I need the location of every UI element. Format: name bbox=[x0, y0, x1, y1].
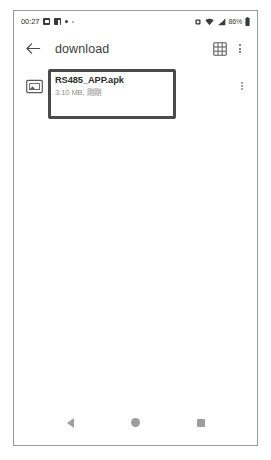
status-bar-left: 00:27 bbox=[21, 17, 74, 26]
page-title: download bbox=[55, 42, 211, 56]
row-overflow-icon[interactable] bbox=[235, 78, 249, 94]
status-bar: 00:27 86% bbox=[14, 11, 257, 32]
facebook-icon bbox=[54, 18, 61, 25]
overflow-dot bbox=[239, 44, 241, 46]
nav-recents-button[interactable] bbox=[186, 408, 216, 438]
row-overflow-dot bbox=[241, 82, 243, 84]
recents-square-icon bbox=[197, 419, 205, 427]
overflow-dot bbox=[239, 48, 241, 50]
file-meta: 3.10 MB, 剛剛 bbox=[55, 87, 235, 98]
arrow-back-icon[interactable] bbox=[23, 39, 43, 59]
vibrate-icon bbox=[194, 18, 202, 26]
nav-back-button[interactable] bbox=[56, 408, 86, 438]
screenshot-icon bbox=[43, 18, 50, 25]
file-name: RS485_APP.apk bbox=[55, 74, 235, 86]
wifi-icon bbox=[205, 18, 214, 26]
list-item[interactable]: RS485_APP.apk 3.10 MB, 剛剛 bbox=[14, 65, 257, 107]
row-overflow-dot bbox=[241, 88, 243, 90]
signal-icon bbox=[217, 18, 226, 26]
file-text-block: RS485_APP.apk 3.10 MB, 剛剛 bbox=[55, 74, 235, 98]
status-bar-right: 86% bbox=[194, 17, 250, 26]
app-bar: download bbox=[14, 32, 257, 65]
nav-home-button[interactable] bbox=[121, 408, 151, 438]
image-file-icon bbox=[26, 79, 43, 94]
file-list[interactable]: RS485_APP.apk 3.10 MB, 剛剛 bbox=[14, 65, 257, 400]
back-triangle-icon bbox=[67, 418, 74, 428]
row-overflow-dot bbox=[241, 85, 243, 87]
status-time: 00:27 bbox=[21, 17, 39, 26]
battery-icon bbox=[245, 17, 250, 26]
overflow-dot bbox=[239, 51, 241, 53]
dot-small-icon bbox=[72, 21, 74, 23]
phone-frame: 00:27 86% bbox=[13, 10, 258, 446]
battery-percent-label: 86% bbox=[229, 18, 242, 25]
home-circle-icon bbox=[131, 418, 140, 427]
system-nav-bar bbox=[14, 400, 257, 445]
grid-view-icon[interactable] bbox=[211, 40, 229, 58]
overflow-menu-icon[interactable] bbox=[232, 40, 248, 58]
dot-icon bbox=[65, 20, 68, 23]
